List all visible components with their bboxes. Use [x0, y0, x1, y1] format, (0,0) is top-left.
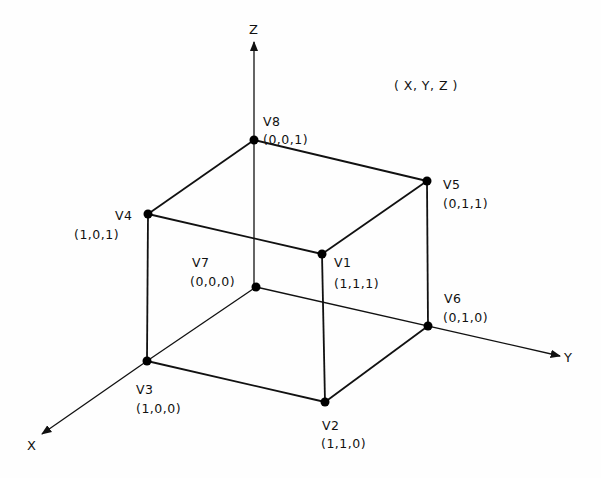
vertex-v2: [321, 398, 330, 407]
edge-v4-v1: [148, 214, 322, 254]
vertex-coords-v8: (0,0,1): [263, 132, 308, 147]
vertex-label-v2: V2: [322, 418, 340, 433]
vertex-coords-v7: (0,0,0): [190, 274, 235, 289]
vertex-coords-v4: (1,0,1): [74, 227, 119, 242]
vertex-coords-v1: (1,1,1): [334, 276, 379, 291]
vertex-coords-v5: (0,1,1): [443, 196, 488, 211]
cube-diagram: Z Y X ( X, Y, Z ) V8 (0,0,1) V5 (0,1,1) …: [0, 0, 601, 478]
vertex-v4: [144, 210, 153, 219]
coordinate-convention-note: ( X, Y, Z ): [394, 78, 458, 93]
vertex-label-v7: V7: [192, 255, 210, 270]
edge-v5-v6: [427, 181, 428, 326]
vertex-v8: [250, 136, 259, 145]
edge-v3-v2: [147, 361, 325, 402]
vertex-coords-v6: (0,1,0): [443, 310, 488, 325]
edge-v1-v2: [322, 254, 325, 402]
vertex-label-v8: V8: [263, 114, 281, 129]
x-axis: [42, 361, 147, 434]
vertex-label-v4: V4: [115, 208, 133, 223]
edge-v1-v5: [322, 181, 427, 254]
vertex-v1: [318, 250, 327, 259]
vertex-label-v1: V1: [334, 255, 352, 270]
vertex-v7: [252, 283, 261, 292]
y-axis: [256, 287, 560, 356]
edge-v4-v3: [147, 214, 148, 361]
vertex-coords-v2: (1,1,0): [321, 436, 366, 451]
vertex-label-v5: V5: [443, 177, 461, 192]
x-axis-inner: [147, 287, 256, 361]
vertex-label-v6: V6: [444, 291, 462, 306]
vertex-v5: [423, 177, 432, 186]
vertex-coords-v3: (1,0,0): [136, 401, 181, 416]
vertex-v3: [143, 357, 152, 366]
diagram-canvas: Z Y X ( X, Y, Z ) V8 (0,0,1) V5 (0,1,1) …: [0, 0, 601, 478]
edge-v2-v6: [325, 326, 428, 402]
x-axis-label: X: [27, 438, 36, 453]
z-axis-label: Z: [249, 22, 258, 37]
vertex-label-v3: V3: [136, 382, 154, 397]
vertex-v6: [424, 322, 433, 331]
y-axis-label: Y: [563, 350, 572, 365]
edge-v8-v4: [148, 140, 254, 214]
